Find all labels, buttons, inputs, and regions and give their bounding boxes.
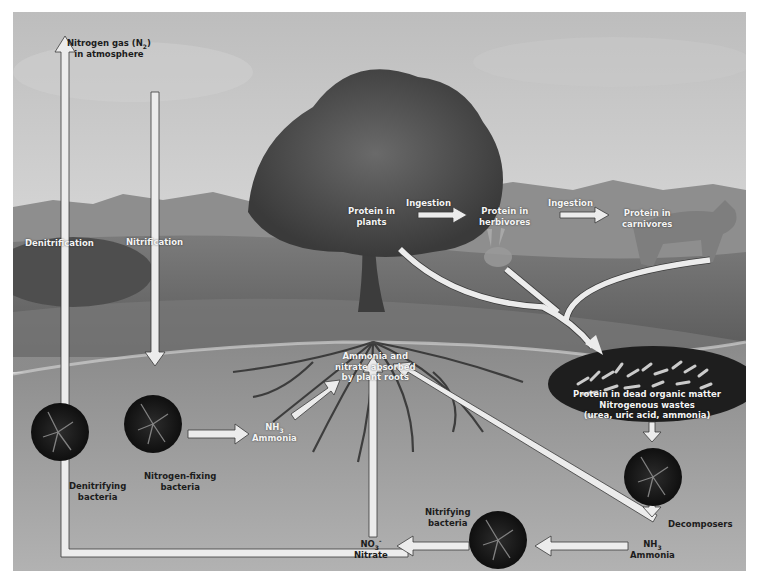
ingestion-label-1: Ingestion bbox=[406, 198, 451, 209]
denitrifying-bacteria-label: Denitrifying bacteria bbox=[69, 481, 126, 502]
nitrification-label: Nitrification bbox=[126, 237, 183, 248]
protein-herbivores-label: Protein in herbivores bbox=[479, 206, 530, 227]
nitrogen-fixing-bacteria-label: Nitrogen-fixing bacteria bbox=[144, 471, 216, 492]
nitrifying-bacteria-label: Nitrifying bacteria bbox=[425, 507, 470, 528]
dead-matter-label: Protein in dead organic matter Nitrogeno… bbox=[573, 389, 721, 421]
ingestion-label-2: Ingestion bbox=[548, 198, 593, 209]
nitrate-label: NO3- Nitrate bbox=[354, 539, 388, 560]
protein-plants-label: Protein in plants bbox=[348, 206, 395, 227]
ammonia-left-label: NH3 Ammonia bbox=[252, 422, 297, 443]
roots-absorb-label: Ammonia and nitrate absorbed by plant ro… bbox=[335, 351, 416, 383]
nitrogen-cycle-diagram: Nitrogen gas (N2) in atmosphere Denitrif… bbox=[13, 12, 746, 571]
decomposers-label: Decomposers bbox=[668, 519, 733, 530]
protein-carnivores-label: Protein in carnivores bbox=[622, 208, 672, 229]
denitrification-label: Denitrification bbox=[25, 238, 94, 249]
ammonia-right-label: NH3 Ammonia bbox=[630, 539, 675, 560]
atmosphere-label: Nitrogen gas (N2) in atmosphere bbox=[67, 38, 151, 59]
